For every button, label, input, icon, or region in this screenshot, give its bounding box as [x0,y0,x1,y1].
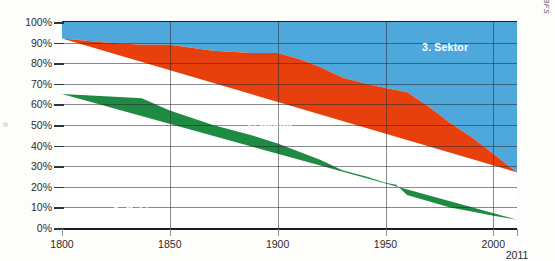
gridline-vertical [386,22,387,228]
y-axis-tick-label: 70% [8,79,52,89]
y-axis-tick-mark [54,104,64,106]
y-axis: 100%90%80%70%60%50%40%30%20%10%0% [0,0,52,261]
gridline-horizontal [62,84,517,85]
gridline-horizontal [62,104,517,105]
series-label-sector1: 1. Sektor [114,204,160,216]
y-axis-tick-mark [54,187,64,189]
y-axis-tick-label: 80% [8,58,52,68]
series-label-sector2: 2. Sektor [248,117,294,129]
x-axis-tick-mark [62,229,63,236]
y-axis-tick-label: 60% [8,99,52,109]
plot-frame-bottom [62,228,517,230]
y-axis-tick-label: 30% [8,161,52,171]
y-axis-tick-label: 40% [8,141,52,151]
gridline-horizontal [62,187,517,188]
y-axis-tick-mark [54,125,64,127]
y-axis-tick-label: 10% [8,202,52,212]
y-axis-tick-mark [54,22,64,24]
y-axis-tick-label: 90% [8,38,52,48]
gridline-vertical [170,22,171,228]
y-axis-tick-mark [54,207,64,209]
gridline-horizontal [62,166,517,167]
x-axis-tick-label: 1950 [358,238,414,250]
source-note: Quelle: BFS [542,0,551,14]
y-axis-tick-label: 20% [8,182,52,192]
x-axis-tick-label: 1900 [250,238,306,250]
gridline-vertical [493,22,494,228]
y-axis-tick-label: 0% [8,223,52,233]
y-axis-tick-mark [54,84,64,86]
x-axis-tick-label: 1800 [34,238,90,250]
gridline-horizontal [62,146,517,147]
x-axis-tick-label: 1850 [142,238,198,250]
x-axis-tick-mark [493,229,494,236]
x-axis-end-tick-mark [517,229,518,236]
y-axis-tick-mark [54,43,64,45]
y-axis-tick-mark [54,63,64,65]
y-axis-tick-mark [54,146,64,148]
chart-figure: 100%90%80%70%60%50%40%30%20%10%0% 1. Sek… [0,0,555,261]
x-axis-end-label: 2011 [489,249,545,261]
series-label-sector3: 3. Sektor [422,41,468,53]
y-axis-tick-label: 50% [8,120,52,130]
plot-area: 1. Sektor2. Sektor3. Sektor [62,22,517,228]
y-axis-tick-mark [54,166,64,168]
y-axis-tick-label: 100% [8,17,52,27]
x-axis-tick-mark [278,229,279,236]
x-axis-tick-mark [386,229,387,236]
x-axis-tick-mark [170,229,171,236]
gridline-horizontal [62,63,517,64]
